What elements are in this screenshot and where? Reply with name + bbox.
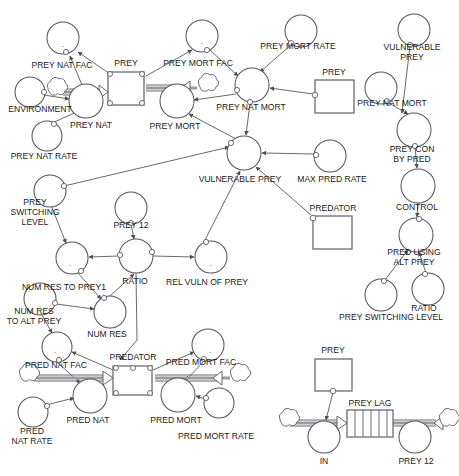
- converter-prey-mort-fac[interactable]: -: [186, 20, 218, 53]
- converter-vulnerable-prey[interactable]: [227, 136, 261, 170]
- converter-prey-con-by-pred[interactable]: [397, 113, 431, 149]
- label-num-res-to-alt-2: TO ALT PREY: [7, 316, 62, 326]
- port-predator-bl: [114, 391, 119, 396]
- label-prey-nat-rate: PREY NAT RATE: [11, 151, 78, 161]
- converter-num-res[interactable]: [94, 295, 126, 328]
- label-pred-using-alt-2: ALT PREY: [394, 257, 435, 267]
- converter-rel-vuln-of-prey[interactable]: -: [195, 239, 227, 273]
- label-rel-vuln-of-prey: REL VULN OF PREY: [166, 277, 248, 287]
- link-ratio-to-rel-vuln: [153, 256, 194, 257]
- label-pred-mort-fac: PRED MORT FAC: [166, 357, 236, 367]
- converter-max-pred-rate[interactable]: [313, 140, 346, 172]
- converter-pred-mort-rate[interactable]: [203, 388, 234, 418]
- cloud-prey12-sink: [439, 408, 459, 426]
- stock-prey[interactable]: [108, 72, 144, 105]
- label-vulnerable-prey: VULNERABLE PREY: [199, 174, 282, 184]
- label-prey-mort-rate: PREY MORT RATE: [260, 41, 336, 51]
- label-pred-nat-rate-2: NAT RATE: [11, 436, 52, 446]
- svg-text:-: -: [62, 43, 64, 49]
- label-in: IN: [320, 456, 329, 466]
- converter-pred-mort[interactable]: [161, 378, 195, 412]
- link-prey-ghost-to-prey-nat-mort: [270, 88, 313, 94]
- converter-ratio-center[interactable]: [117, 239, 154, 273]
- label-prey-mort-fac: PREY MORT FAC: [163, 58, 233, 68]
- label-prey-con-by-pred-1: PREY CON: [390, 144, 435, 154]
- label-num-res-to-alt-1: NUM RES: [14, 306, 54, 316]
- label-pred-mort-rate: PRED MORT RATE: [178, 431, 254, 441]
- link-environment-to-prey-nat: [44, 95, 69, 99]
- label-prey-switching-left-1: PREY: [23, 197, 47, 207]
- label-predator-top: PREDATOR: [110, 352, 157, 362]
- port-prey-ghost-l: [312, 92, 318, 98]
- label-prey-lag: PREY LAG: [349, 398, 392, 408]
- converter-prey-switching-level-right[interactable]: [365, 278, 397, 311]
- link-prey-low-to-in: [326, 392, 333, 420]
- converter-prey-nat-mort[interactable]: [234, 68, 269, 105]
- label-prey-ghost: PREY: [322, 67, 346, 77]
- label-prey-switching-left-2: SWITCHING: [10, 207, 59, 217]
- converters: - - - - - - -: [15, 14, 444, 453]
- converter-in[interactable]: [308, 421, 340, 453]
- label-prey-nat-mort: PREY NAT MORT: [216, 102, 286, 112]
- label-pred-nat-fac: PRED NAT FAC: [25, 360, 87, 370]
- converter-prey-nat-fac[interactable]: -: [47, 22, 79, 55]
- label-environment: ENVIRONMENT: [8, 104, 72, 114]
- label-predator-mid: PREDATOR: [310, 203, 357, 213]
- svg-text:-: -: [69, 262, 71, 268]
- label-num-res-to-prey1: NUM RES TO PREY1: [22, 282, 106, 292]
- label-vulnerable-prey-ghost-1: VULNERABLE: [384, 42, 441, 52]
- port-prey-tl: [108, 72, 113, 77]
- label-prey-switching-right: PREY SWITCHING LEVEL: [339, 312, 443, 322]
- label-num-res: NUM RES: [87, 329, 127, 339]
- link-num-res-alt-to-num-res: [56, 304, 94, 309]
- converter-pred-nat-rate[interactable]: [18, 397, 50, 427]
- label-pred-nat-rate-1: PRED: [20, 426, 44, 436]
- cloud-in-source: [279, 408, 299, 426]
- diagram-canvas: - - - - - - -: [0, 0, 459, 476]
- port-prey-low-b: [330, 388, 336, 394]
- label-prey-low: PREY: [321, 345, 345, 355]
- port-predator-ghost-tl: [310, 215, 316, 221]
- converter-control[interactable]: [401, 169, 435, 203]
- link-prey-nat-mort-to-prey-mort: [194, 94, 236, 100]
- cloud-prey-nat-source: [47, 77, 67, 95]
- port-predator-tr: [148, 366, 153, 371]
- svg-text:-: -: [54, 349, 56, 355]
- stock-prey-ghost[interactable]: [315, 80, 354, 113]
- port-prey-tr: [140, 72, 145, 77]
- converter-prey-mort[interactable]: [160, 84, 194, 118]
- label-prey-nat: PREY NAT: [70, 120, 113, 130]
- label-prey-con-by-pred-2: BY PRED: [393, 154, 431, 164]
- port-prey-bl: [108, 101, 113, 106]
- label-pred-using-alt-1: PRED USING: [387, 247, 441, 257]
- conveyor-prey-lag[interactable]: [347, 410, 393, 437]
- converter-ratio-right[interactable]: [412, 271, 444, 305]
- label-pred-mort: PRED MORT: [150, 415, 202, 425]
- converter-pred-nat-fac[interactable]: -: [42, 332, 72, 363]
- label-max-pred-rate: MAX PRED RATE: [297, 174, 367, 184]
- label-pred-nat: PRED NAT: [67, 415, 111, 425]
- converter-pred-nat[interactable]: [73, 379, 107, 413]
- stock-flow-diagram: - - - - - - -: [0, 0, 459, 476]
- label-prey-nat-fac: PREY NAT FAC: [31, 60, 92, 70]
- label-ratio-center: RATIO: [122, 276, 148, 286]
- converter-num-res-to-prey1[interactable]: -: [56, 242, 88, 274]
- label-prey-mort: PREY MORT: [150, 121, 202, 131]
- label-prey-switching-left-3: LEVEL: [22, 217, 49, 227]
- link-max-pred-rate-to-vulnerable-prey: [262, 153, 315, 154]
- label-vulnerable-prey-ghost-2: PREY: [400, 52, 424, 62]
- cloud-prey-mort-sink: [198, 73, 218, 91]
- label-prey-12-low: PREY 12: [398, 456, 433, 466]
- label-prey-nat-mort-ghost: PREY NAT MORT: [357, 98, 427, 108]
- port-predator-tm: [131, 366, 136, 371]
- port-predator-tl: [114, 366, 119, 371]
- converter-prey-nat-rate[interactable]: [32, 121, 62, 151]
- svg-text:-: -: [210, 262, 212, 268]
- converter-environment[interactable]: [15, 77, 47, 107]
- converter-prey-nat[interactable]: [69, 84, 103, 118]
- converter-prey-12-low[interactable]: [399, 421, 431, 453]
- stock-predator-ghost[interactable]: [313, 216, 352, 249]
- label-prey-top: PREY: [114, 58, 138, 68]
- svg-text:-: -: [201, 40, 203, 46]
- stock-prey-low[interactable]: [315, 359, 352, 391]
